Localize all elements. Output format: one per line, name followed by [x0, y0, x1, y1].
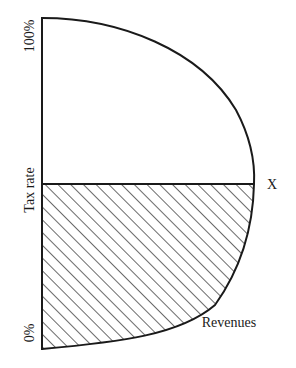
y-axis-title: Tax rate [23, 167, 37, 212]
revenues-label: Revenues [202, 316, 256, 330]
y-tick-0-label: 0% [23, 324, 37, 343]
y-tick-100-label: 100% [23, 20, 37, 53]
laffer-curve-figure [0, 0, 296, 368]
x-marker-label: X [267, 178, 277, 192]
